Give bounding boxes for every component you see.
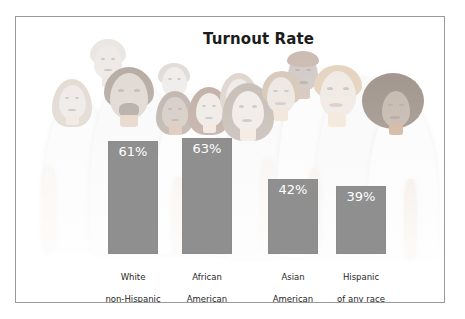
bar-category-line2: of any race bbox=[337, 294, 385, 303]
figure-frame: Turnout Rate 61% White non-Hispanic 63% … bbox=[15, 16, 445, 303]
bar-category-label: African American bbox=[160, 261, 254, 303]
bar-group-asian-american[interactable]: 42% Asian American bbox=[268, 179, 318, 254]
plot-area: 61% White non-Hispanic 63% African Ameri… bbox=[16, 17, 445, 303]
chart-figure: Turnout Rate 61% White non-Hispanic 63% … bbox=[0, 0, 465, 319]
bar-category-line1: African bbox=[192, 272, 222, 282]
bar-category-label: Hispanic of any race bbox=[314, 261, 408, 303]
bar-value-label: 61% bbox=[108, 144, 158, 160]
bar-value-label: 42% bbox=[268, 182, 318, 198]
bar-category-line2: non-Hispanic bbox=[105, 294, 160, 303]
bar-category-line1: White bbox=[121, 272, 146, 282]
bar-african-american[interactable]: 63% bbox=[182, 138, 232, 254]
bar-hispanic-any-race[interactable]: 39% bbox=[336, 186, 386, 254]
bar-category-line2: American bbox=[273, 294, 313, 303]
bar-asian-american[interactable]: 42% bbox=[268, 179, 318, 254]
bar-group-african-american[interactable]: 63% African American bbox=[182, 138, 232, 254]
bar-white-non-hispanic[interactable]: 61% bbox=[108, 141, 158, 254]
bar-value-label: 39% bbox=[336, 189, 386, 205]
bar-category-line2: American bbox=[187, 294, 227, 303]
bar-group-hispanic-any-race[interactable]: 39% Hispanic of any race bbox=[336, 186, 386, 254]
bar-category-line1: Asian bbox=[281, 272, 304, 282]
bar-value-label: 63% bbox=[182, 141, 232, 157]
bar-category-line1: Hispanic bbox=[343, 272, 379, 282]
bar-group-white-non-hispanic[interactable]: 61% White non-Hispanic bbox=[108, 141, 158, 254]
